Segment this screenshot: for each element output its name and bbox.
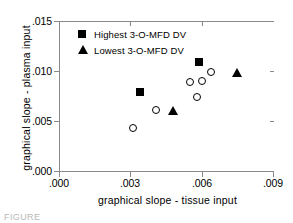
- data-point-filled-triangle: [232, 68, 242, 77]
- data-point-open-circle: [129, 124, 137, 132]
- scatter-plot-figure: .015 .010 .005 .000 .000 .003 .006 .009 …: [0, 0, 293, 223]
- data-point-open-circle: [186, 78, 194, 86]
- data-point-open-circle: [152, 106, 160, 114]
- figure-caption-scrap: FIGURE: [4, 212, 40, 222]
- data-point-layer: [59, 21, 273, 171]
- data-point-filled-triangle: [168, 106, 178, 115]
- x-tick-label-000: .000: [36, 177, 82, 189]
- data-point-filled-square: [195, 58, 203, 66]
- data-point-open-circle: [198, 77, 206, 85]
- y-axis-title: graphical slope - plasma input: [20, 8, 32, 188]
- x-tick-label-006: .006: [179, 177, 225, 189]
- data-point-filled-square: [136, 88, 144, 96]
- x-axis-title: graphical slope - tissue input: [45, 194, 290, 206]
- data-point-open-circle: [207, 68, 215, 76]
- x-tick-label-009: .009: [250, 177, 293, 189]
- x-tick-label-003: .003: [107, 177, 153, 189]
- data-point-open-circle: [193, 93, 201, 101]
- x-axis-line: [59, 171, 274, 172]
